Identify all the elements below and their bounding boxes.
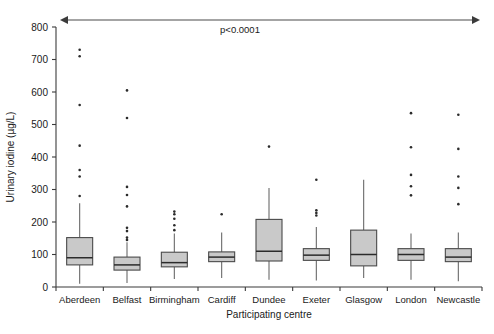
y-tick-label: 700 (31, 54, 48, 65)
outlier-point (126, 236, 129, 239)
outlier-point (78, 169, 81, 172)
x-category-label: Glasgow (345, 294, 382, 305)
y-tick-label: 100 (31, 249, 48, 260)
p-value-annotation: p<0.0001 (60, 16, 480, 35)
outlier-point (173, 210, 176, 213)
x-category-label: London (395, 294, 427, 305)
outlier-point (126, 205, 129, 208)
y-tick-label: 500 (31, 119, 48, 130)
box-plot-group (209, 213, 235, 278)
x-category-label: Newcastle (436, 294, 480, 305)
outlier-point (78, 195, 81, 198)
boxplot-figure: p<0.0001 0100200300400500600700800 Aberd… (0, 0, 494, 334)
outlier-point (173, 224, 176, 227)
outlier-point (78, 175, 81, 178)
box-plot-group (161, 210, 187, 279)
x-category-label: Dundee (252, 294, 285, 305)
box-plots (67, 48, 472, 283)
outlier-point (315, 212, 318, 215)
box-plot-group (256, 145, 282, 280)
outlier-point (126, 239, 129, 242)
box-iqr (445, 249, 471, 262)
outlier-point (315, 178, 318, 181)
box-plot-group (114, 89, 140, 283)
outlier-point (457, 148, 460, 151)
box-iqr (351, 230, 377, 266)
outlier-point (315, 209, 318, 212)
axis-labels: AberdeenBelfastBirminghamCardiffDundeeEx… (5, 112, 480, 320)
outlier-point (78, 104, 81, 107)
y-tick-label: 600 (31, 87, 48, 98)
outlier-point (410, 146, 413, 149)
x-axis-title: Participating centre (226, 309, 312, 320)
outlier-point (78, 55, 81, 58)
outlier-point (410, 174, 413, 177)
box-iqr (114, 257, 140, 270)
outlier-point (126, 117, 129, 120)
box-plot-group (303, 178, 329, 280)
arrow-head-left-icon (60, 16, 68, 24)
outlier-point (173, 213, 176, 216)
box-iqr (161, 252, 187, 267)
outlier-point (410, 112, 413, 115)
outlier-point (220, 213, 223, 216)
box-plot-group (445, 113, 471, 281)
outlier-point (457, 175, 460, 178)
y-axis-title: Urinary iodine (µg/L) (5, 112, 16, 203)
outlier-point (315, 214, 318, 217)
outlier-point (126, 186, 129, 189)
outlier-point (126, 194, 129, 197)
arrow-head-right-icon (472, 16, 480, 24)
box-plot-group (351, 180, 377, 278)
outlier-point (457, 203, 460, 206)
x-category-label: Exeter (303, 294, 330, 305)
outlier-point (78, 144, 81, 147)
outlier-point (457, 113, 460, 116)
outlier-point (126, 227, 129, 230)
box-iqr (67, 238, 93, 265)
outlier-point (78, 48, 81, 51)
x-category-label: Birmingham (149, 294, 200, 305)
box-iqr (256, 219, 282, 261)
box-plot-group (67, 48, 93, 283)
outlier-point (457, 187, 460, 190)
outlier-point (410, 185, 413, 188)
outlier-point (126, 89, 129, 92)
y-tick-label: 800 (31, 22, 48, 33)
outlier-point (126, 230, 129, 233)
y-tick-label: 200 (31, 217, 48, 228)
y-tick-label: 0 (42, 282, 48, 293)
outlier-point (410, 194, 413, 197)
outlier-point (173, 229, 176, 232)
y-tick-label: 400 (31, 152, 48, 163)
box-plot-group (398, 112, 424, 280)
p-value-label: p<0.0001 (220, 24, 260, 35)
outlier-point (268, 145, 271, 148)
boxplot-svg: p<0.0001 0100200300400500600700800 Aberd… (0, 0, 494, 334)
x-category-label: Belfast (112, 294, 141, 305)
x-category-label: Aberdeen (59, 294, 100, 305)
outlier-point (173, 217, 176, 220)
y-tick-label: 300 (31, 184, 48, 195)
x-category-label: Cardiff (208, 294, 236, 305)
